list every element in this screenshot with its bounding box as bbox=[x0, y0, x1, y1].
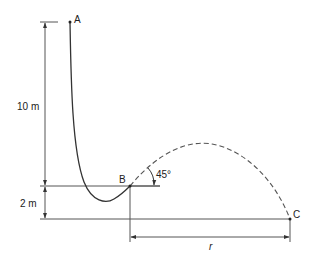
dimension-2m-label: 2 m bbox=[20, 198, 37, 209]
point-c-label: C bbox=[293, 209, 300, 220]
point-b-label: B bbox=[119, 174, 126, 185]
angle-label: 45° bbox=[156, 169, 171, 180]
diagram-canvas: 10 m 2 m r 45° A B C bbox=[0, 0, 313, 258]
dimension-10m-label: 10 m bbox=[17, 101, 39, 112]
point-b-dot bbox=[129, 185, 132, 188]
point-a-label: A bbox=[74, 14, 81, 25]
point-c-dot bbox=[289, 218, 292, 221]
point-a-dot bbox=[69, 21, 72, 24]
angle-arc bbox=[148, 168, 154, 185]
dimension-r-label: r bbox=[209, 241, 213, 252]
